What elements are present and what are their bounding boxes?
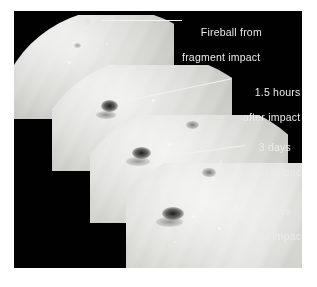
- impact-scar-halo: [156, 217, 183, 227]
- bright-speck: [218, 227, 221, 230]
- bright-speck: [236, 207, 238, 209]
- annotation-fireball-line2: fragment impact: [182, 51, 262, 64]
- bright-speck: [174, 241, 176, 243]
- bright-speck: [168, 143, 171, 146]
- annotation-3-days-line2: after impact: [240, 166, 302, 179]
- bright-speck: [192, 215, 195, 218]
- fireball-point: [86, 20, 89, 23]
- annotation-5-days-line1: 5 days: [259, 205, 291, 217]
- annotation-5-days-line2: after impact: [240, 230, 302, 243]
- impact-scar-secondary: [186, 121, 199, 129]
- bright-speck: [106, 43, 108, 45]
- faint-marking: [74, 43, 81, 48]
- jupiter-impact-figure: Fireball from fragment impact 1.5 hours …: [0, 0, 317, 287]
- bright-speck: [152, 99, 155, 102]
- annotation-1-5-hours-line2: after impact: [236, 111, 300, 124]
- impact-scar-secondary: [202, 168, 216, 177]
- annotation-fireball-line1: Fireball from: [201, 26, 262, 38]
- bright-speck: [68, 61, 71, 64]
- annotation-1-5-hours-line1: 1.5 hours: [255, 86, 301, 98]
- annotation-3-days-line1: 3 days: [259, 141, 291, 153]
- leader-line-fireball: [102, 20, 182, 21]
- photo-plate: Fireball from fragment impact 1.5 hours …: [14, 11, 302, 268]
- annotation-5-days: 5 days after impact: [240, 192, 302, 267]
- leader-line-5-days: [190, 198, 234, 199]
